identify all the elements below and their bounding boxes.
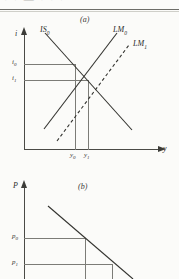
panel-b-curves	[0, 0, 179, 279]
figure-page: · · — · · · (a) i y i0 i1 y0 y1 IS0 LM0 …	[0, 0, 179, 279]
curve-ad-line	[48, 206, 133, 279]
